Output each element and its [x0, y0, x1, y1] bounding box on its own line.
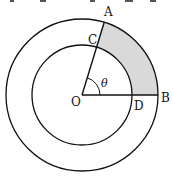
label-D: D: [134, 99, 144, 113]
label-O: O: [71, 95, 81, 109]
label-B: B: [161, 91, 170, 105]
diagram-canvas: A B C D O θ: [0, 0, 173, 176]
label-A: A: [103, 5, 113, 19]
angle-arc: [87, 78, 100, 95]
label-C: C: [88, 33, 97, 47]
label-theta: θ: [101, 77, 108, 90]
cut-off-text: [10, 0, 156, 2]
